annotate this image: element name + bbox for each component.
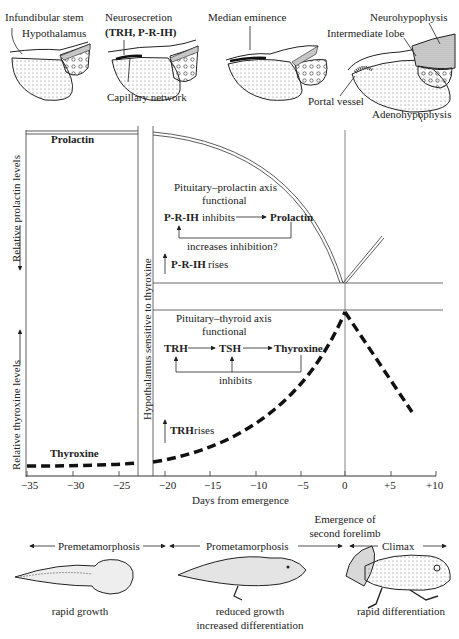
x-tick: +5 (384, 479, 396, 491)
x-tick: −15 (204, 479, 221, 491)
label-neurosecretion-hormones: (TRH, P-R-IH) (105, 26, 177, 38)
label-median-eminence: Median eminence (208, 11, 287, 23)
label-adenohypophysis: Adenohypophysis (372, 108, 451, 120)
thyroid-rises-text: rises (194, 424, 214, 436)
thyroid-chain-trh: TRH (164, 342, 188, 354)
prolactin-axis-title: Pituitary–prolactin axis (174, 181, 277, 193)
prolactin-axis-target: Prolactin (270, 211, 313, 223)
caption-premetamorphosis: rapid growth (30, 605, 130, 617)
series-label-thyroxine: Thyroxine (50, 447, 99, 459)
thyroid-chain-thyroxine: Thyroxine (274, 342, 323, 354)
stage-premetamorphosis: Premetamorphosis (58, 540, 140, 552)
prolactin-rises-hormone: P-R-IH (171, 258, 206, 270)
caption-prometamorphosis-2: increased differentiation (180, 619, 320, 631)
x-axis-label: Days from emergence (192, 494, 289, 506)
thyroid-rises-hormone: TRH (170, 424, 194, 436)
label-portal-vessel: Portal vessel (308, 95, 364, 107)
x-tick: −25 (113, 479, 130, 491)
x-tick: −35 (21, 479, 38, 491)
x-tick: +10 (426, 479, 443, 491)
prolactin-rises-text: rises (208, 258, 228, 270)
x-tick: 0 (342, 479, 348, 491)
label-neurohypophysis: Neurohypophysis (370, 11, 448, 23)
caption-prometamorphosis-1: reduced growth (190, 605, 310, 617)
prolactin-axis-feedback: increases inhibition? (187, 240, 278, 252)
x-tick: −10 (250, 479, 267, 491)
stage-climax: Climax (382, 540, 414, 552)
y-label-prolactin: Relative prolactin levels (10, 155, 22, 262)
x-tick: −20 (159, 479, 176, 491)
froglet-climax (346, 546, 450, 608)
thyroid-axis-subtitle: functional (202, 325, 247, 337)
x-tick: −30 (67, 479, 84, 491)
tadpole-prometamorphosis (178, 557, 306, 600)
label-intermediate-lobe: Intermediate lobe (327, 27, 404, 39)
stage-prometamorphosis: Prometamorphosis (206, 540, 289, 552)
prolactin-axis-inhibitor: P-R-IH (164, 211, 199, 223)
y-label-thyroxine: Relative thyroxine levels (10, 360, 22, 470)
chart-frame (26, 126, 443, 477)
pituitary-panel-3 (226, 26, 327, 100)
band-label-hypothalamus: Hypothalamus sensitive to thyroxine (141, 258, 153, 420)
prolactin-axis-subtitle: functional (202, 194, 247, 206)
tadpole-premetamorphosis (15, 560, 133, 594)
label-infundibular-stem: Infundibular stem (5, 11, 84, 23)
thyroid-axis-title: Pituitary–thyroid axis (176, 312, 272, 324)
event-label-line1: Emergence of (305, 513, 385, 525)
label-neurosecretion: Neurosecretion (105, 11, 172, 23)
label-capillary-network: Capillary network (107, 91, 187, 103)
thyroid-chain-tsh: TSH (219, 342, 241, 354)
event-label-line2: second forelimb (300, 527, 390, 539)
caption-climax: rapid differentiation (345, 605, 457, 617)
x-tick: −5 (297, 479, 309, 491)
label-hypothalamus: Hypothalamus (22, 27, 86, 39)
series-label-prolactin: Prolactin (51, 133, 94, 145)
thyroid-axis-feedback: inhibits (219, 374, 252, 386)
prolactin-axis-verb: inhibits (202, 211, 235, 223)
